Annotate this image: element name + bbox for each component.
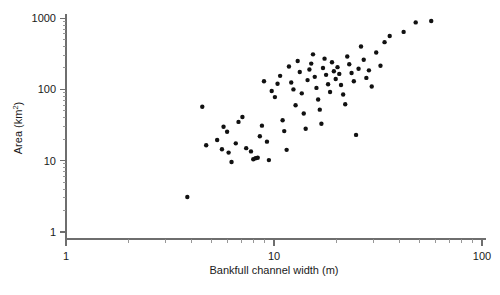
scatter-plot-figure: 1101001000110100 Bankfull channel width … bbox=[0, 0, 500, 295]
data-point bbox=[367, 68, 371, 72]
data-point bbox=[414, 20, 418, 24]
plot-canvas: 1101001000110100 bbox=[0, 0, 500, 295]
data-point bbox=[356, 67, 360, 71]
data-point bbox=[302, 111, 306, 115]
data-point bbox=[305, 78, 309, 82]
data-point bbox=[324, 73, 328, 77]
data-point bbox=[240, 115, 244, 119]
data-point bbox=[303, 127, 307, 131]
data-point bbox=[278, 74, 282, 78]
data-point bbox=[265, 139, 269, 143]
data-point bbox=[388, 34, 392, 38]
data-point bbox=[234, 141, 238, 145]
data-point bbox=[313, 75, 317, 79]
y-tick-label: 1 bbox=[50, 226, 56, 238]
data-point bbox=[343, 102, 347, 106]
data-point bbox=[321, 66, 325, 70]
data-point bbox=[354, 133, 358, 137]
data-points bbox=[185, 19, 433, 199]
data-point bbox=[221, 124, 225, 128]
data-point bbox=[260, 123, 264, 127]
data-point bbox=[236, 120, 240, 124]
data-point bbox=[293, 103, 297, 107]
data-point bbox=[220, 147, 224, 151]
data-point bbox=[282, 129, 286, 133]
data-point bbox=[339, 83, 343, 87]
data-point bbox=[296, 59, 300, 63]
data-point bbox=[349, 71, 353, 75]
data-point bbox=[284, 148, 288, 152]
axes bbox=[66, 14, 486, 239]
axis-ticks bbox=[60, 18, 482, 246]
y-tick-label: 1000 bbox=[32, 12, 56, 24]
data-point bbox=[258, 134, 262, 138]
data-point bbox=[382, 40, 386, 44]
data-point bbox=[326, 82, 330, 86]
data-point bbox=[314, 86, 318, 90]
data-point bbox=[249, 149, 253, 153]
data-point bbox=[244, 146, 248, 150]
x-tick-label: 1 bbox=[63, 250, 69, 262]
data-point bbox=[319, 122, 323, 126]
data-point bbox=[280, 118, 284, 122]
data-point bbox=[362, 58, 366, 62]
data-point bbox=[262, 79, 266, 83]
x-tick-label: 10 bbox=[268, 250, 280, 262]
data-point bbox=[229, 160, 233, 164]
data-point bbox=[374, 50, 378, 54]
data-point bbox=[345, 54, 349, 58]
data-point bbox=[429, 19, 433, 23]
data-point bbox=[270, 89, 274, 93]
data-point bbox=[300, 91, 304, 95]
data-point bbox=[341, 92, 345, 96]
data-point bbox=[225, 130, 229, 134]
data-point bbox=[267, 158, 271, 162]
data-point bbox=[378, 63, 382, 67]
data-point bbox=[347, 62, 351, 66]
data-point bbox=[334, 77, 338, 81]
data-point bbox=[337, 72, 341, 76]
data-point bbox=[370, 84, 374, 88]
data-point bbox=[204, 143, 208, 147]
data-point bbox=[328, 90, 332, 94]
data-point bbox=[309, 61, 313, 65]
data-point bbox=[275, 82, 279, 86]
data-point bbox=[200, 105, 204, 109]
data-point bbox=[256, 156, 260, 160]
data-point bbox=[291, 87, 295, 91]
data-point bbox=[322, 56, 326, 60]
data-point bbox=[330, 60, 334, 64]
data-point bbox=[335, 65, 339, 69]
data-point bbox=[185, 195, 189, 199]
y-tick-label: 100 bbox=[38, 83, 56, 95]
data-point bbox=[364, 76, 368, 80]
data-point bbox=[311, 52, 315, 56]
data-point bbox=[226, 150, 230, 154]
data-point bbox=[307, 67, 311, 71]
data-point bbox=[273, 95, 277, 99]
data-point bbox=[298, 70, 302, 74]
data-point bbox=[215, 138, 219, 142]
data-point bbox=[352, 79, 356, 83]
data-point bbox=[287, 64, 291, 68]
data-point bbox=[359, 44, 363, 48]
data-point bbox=[318, 107, 322, 111]
y-tick-label: 10 bbox=[44, 155, 56, 167]
data-point bbox=[401, 30, 405, 34]
data-point bbox=[316, 97, 320, 101]
data-point bbox=[332, 69, 336, 73]
x-tick-label: 100 bbox=[473, 250, 491, 262]
data-point bbox=[289, 80, 293, 84]
